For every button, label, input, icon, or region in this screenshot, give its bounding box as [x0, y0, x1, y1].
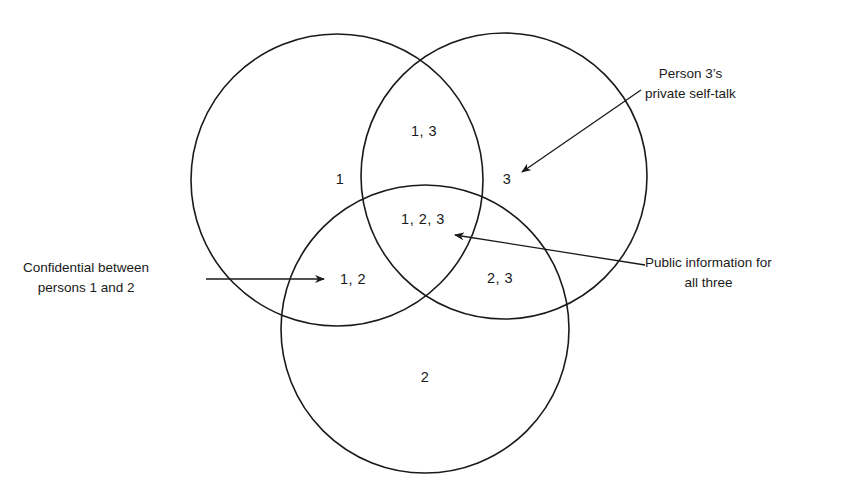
- region-label-2: 2: [421, 368, 430, 386]
- region-label-1: 1: [336, 170, 345, 188]
- callout-public: Public information for all three: [645, 253, 772, 293]
- callout-confidential: Confidential between persons 1 and 2: [23, 258, 149, 298]
- callout-self-talk-line2: private self-talk: [645, 84, 736, 104]
- callout-confidential-line2: persons 1 and 2: [23, 278, 149, 298]
- callout-public-line1: Public information for: [645, 253, 772, 273]
- region-label-3: 3: [503, 170, 512, 188]
- circle-person-2: [281, 185, 569, 473]
- callout-confidential-line1: Confidential between: [23, 258, 149, 278]
- venn-diagram: 1 3 2 1, 3 1, 2, 3 1, 2 2, 3 Person 3’s …: [0, 0, 848, 503]
- region-label-1-2: 1, 2: [340, 270, 366, 288]
- region-label-1-3: 1, 3: [411, 122, 437, 140]
- region-label-2-3: 2, 3: [487, 269, 513, 287]
- arrow-public: [455, 235, 645, 265]
- arrow-self-talk: [522, 90, 641, 172]
- region-label-1-2-3: 1, 2, 3: [401, 210, 445, 228]
- callout-public-line2: all three: [645, 273, 772, 293]
- callout-self-talk: Person 3’s private self-talk: [645, 64, 736, 104]
- callout-self-talk-line1: Person 3’s: [645, 64, 736, 84]
